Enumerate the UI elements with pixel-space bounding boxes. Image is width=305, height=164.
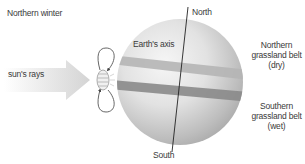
northern-belt-line3: (dry) [249, 60, 304, 70]
northern-grassland-belt-label: Northern grassland belt (dry) [249, 40, 304, 70]
south-label: South [153, 150, 174, 160]
sun-rays-label: sun's rays [8, 69, 44, 79]
northern-belt-line2: grassland belt [249, 50, 304, 60]
northern-belt-line1: Northern [249, 40, 304, 50]
southern-belt-line2: grassland belt [249, 111, 304, 121]
southern-grassland-belt-label: Southern grassland belt (wet) [249, 101, 304, 131]
earth-axis-label: Earth's axis [133, 39, 174, 49]
air-circulation-cell [97, 48, 115, 112]
sun-rays-arrow [4, 60, 90, 100]
southern-belt-line1: Southern [249, 101, 304, 111]
title-label: Northern winter [7, 8, 62, 18]
diagram-canvas [0, 0, 305, 164]
southern-belt-line3: (wet) [249, 121, 304, 131]
north-label: North [192, 7, 212, 17]
